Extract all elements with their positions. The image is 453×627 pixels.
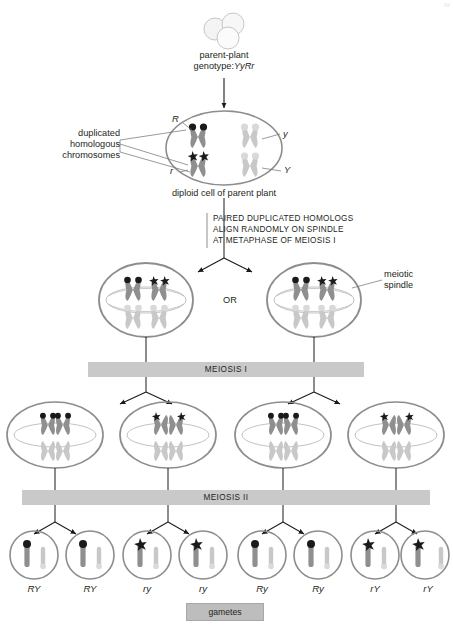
gamete-label-3: ry xyxy=(143,583,151,594)
gametes-bar-label: gametes xyxy=(209,607,242,617)
diploid-cell xyxy=(120,111,282,185)
meiosis-two-bar: MEIOSIS II xyxy=(22,490,430,505)
meiotic-spindle-label-line1: meiotic xyxy=(384,269,413,280)
metaphase-note-line1: PAIRED DUPLICATED HOMOLOGS xyxy=(213,214,353,224)
branch-arrows-after-meiosis1 xyxy=(120,392,340,404)
parent-plant-genotype-line: genotype:YyRr xyxy=(194,61,255,72)
duplicated-callout-line1: duplicated xyxy=(20,128,120,139)
allele-label-R: R xyxy=(172,113,179,124)
allele-label-Y: Y xyxy=(284,164,290,175)
meiosis-independent-assortment-figure: IV xyxy=(0,0,453,627)
metaphase-cell-right xyxy=(267,263,382,337)
gamete-label-8: rY xyxy=(423,583,433,594)
metaphase-note-line2: ALIGN RANDOMLY ON SPINDLE xyxy=(213,225,344,235)
allele-label-y: y xyxy=(283,128,288,139)
duplicated-callout-line2: homologous xyxy=(20,139,120,150)
allele-label-r: r xyxy=(170,165,173,176)
duplicated-callout-line3: chromosomes xyxy=(20,150,120,161)
parent-plant-label-line1: parent-plant xyxy=(199,50,248,61)
gamete-label-2: RY xyxy=(84,583,97,594)
meiosis-one-bar: MEIOSIS I xyxy=(88,362,364,377)
diagram-artwork xyxy=(0,0,453,627)
meiosis-one-bar-label: MEIOSIS I xyxy=(205,365,247,374)
gametes-bar: gametes xyxy=(186,603,264,621)
metaphase-note-line3: AT METAPHASE OF MEIOSIS I xyxy=(213,236,336,246)
genotype-prefix: genotype: xyxy=(194,61,234,71)
genotype-value: YyRr xyxy=(234,61,254,71)
gamete-label-7: rY xyxy=(370,583,380,594)
gamete-label-5: Ry xyxy=(256,583,268,594)
branch-arrows-after-meiosis2 xyxy=(34,522,417,534)
meiosis1-product-cells xyxy=(7,402,444,468)
branch-arrows-metaphase xyxy=(198,258,252,272)
or-label: OR xyxy=(223,295,237,306)
meiosis-two-bar-label: MEIOSIS II xyxy=(204,493,249,502)
gamete-cells xyxy=(10,531,449,579)
diploid-cell-caption: diploid cell of parent plant xyxy=(172,188,276,199)
metaphase-cell-left xyxy=(99,263,193,337)
gamete-label-4: ry xyxy=(199,583,207,594)
gamete-label-1: RY xyxy=(28,583,41,594)
pea-seeds-icon xyxy=(204,13,244,49)
meiotic-spindle-label-line2: spindle xyxy=(384,280,413,291)
gamete-label-6: Ry xyxy=(312,583,324,594)
